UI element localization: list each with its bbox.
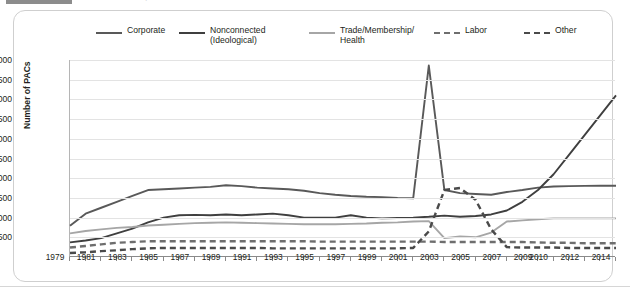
- series-line-labor: [70, 241, 616, 247]
- y-axis-tick-label: 3,500: [0, 114, 12, 124]
- gridline: [70, 218, 615, 219]
- legend-swatch-icon: [179, 32, 205, 34]
- legend-item-nonconnected[interactable]: Nonconnected (Ideological): [179, 25, 265, 45]
- legend-swatch-icon: [524, 32, 550, 34]
- legend-swatch-icon: [96, 32, 122, 34]
- title-strip: Growth in PACs, 1979-2014: [0, 0, 630, 8]
- x-axis-tick-label: 2007: [482, 252, 501, 262]
- gridline: [70, 80, 615, 81]
- plot-area: 5001,0001,5002,0002,5003,0003,5004,0004,…: [69, 60, 615, 257]
- y-axis-tick-label: 3,000: [0, 134, 12, 144]
- page-title: Growth in PACs, 1979-2014: [86, 0, 190, 2]
- gridline: [70, 198, 615, 199]
- x-axis-tick-label: 1991: [233, 252, 252, 262]
- x-axis-tick-label: 1983: [108, 252, 127, 262]
- x-axis-tick-label: 1997: [326, 252, 345, 262]
- chart-legend: CorporateNonconnected (Ideological)Trade…: [74, 25, 630, 55]
- legend-label: Nonconnected (Ideological): [210, 25, 265, 45]
- x-axis-tick-label: 2001: [389, 252, 408, 262]
- x-axis-tick-label: 1995: [295, 252, 314, 262]
- x-axis-tick-label: 1989: [202, 252, 221, 262]
- gridline: [70, 60, 615, 61]
- x-axis-tick-label: 1993: [264, 252, 283, 262]
- gridline: [70, 119, 615, 120]
- y-axis-title: Number of PACs: [22, 61, 32, 129]
- y-axis-tick-label: 4,500: [0, 75, 12, 85]
- series-line-corporate: [70, 66, 616, 226]
- x-axis-tick-label: 1985: [139, 252, 158, 262]
- chart-card: CorporateNonconnected (Ideological)Trade…: [13, 10, 613, 282]
- legend-label: Trade/Membership/ Health: [340, 25, 414, 45]
- gridline: [70, 237, 615, 238]
- legend-swatch-icon: [309, 32, 335, 34]
- legend-label: Other: [555, 25, 577, 35]
- y-axis-tick-label: 500: [0, 232, 12, 242]
- y-axis-tick-label: 1,000: [0, 213, 12, 223]
- x-axis-tick-label: 2003: [420, 252, 439, 262]
- x-axis-tick-label: 2012: [560, 252, 579, 262]
- y-axis-tick-label: 1,500: [0, 193, 12, 203]
- x-axis-tick-label: 2010: [529, 252, 548, 262]
- gridline: [70, 99, 615, 100]
- title-tab-marker: [6, 0, 72, 4]
- x-axis-tick-label: 2005: [451, 252, 470, 262]
- legend-item-corporate[interactable]: Corporate: [96, 25, 165, 35]
- x-axis-tick-label: 1999: [358, 252, 377, 262]
- gridline: [70, 178, 615, 179]
- legend-item-labor[interactable]: Labor: [434, 25, 487, 35]
- gridline: [70, 139, 615, 140]
- legend-swatch-icon: [434, 32, 460, 34]
- x-axis-tick-label: 1981: [77, 252, 96, 262]
- legend-label: Labor: [465, 25, 487, 35]
- y-axis-tick-label: 5,000: [0, 55, 12, 65]
- x-axis-tick-label: 1979: [46, 252, 65, 262]
- legend-item-other[interactable]: Other: [524, 25, 577, 35]
- y-axis-tick-label: 2,000: [0, 173, 12, 183]
- x-axis-tick-label: 2014: [592, 252, 611, 262]
- x-axis-labels: 1979198119831985198719891991199319951997…: [0, 252, 630, 266]
- legend-item-trade-membership[interactable]: Trade/Membership/ Health: [309, 25, 414, 45]
- legend-label: Corporate: [127, 25, 165, 35]
- y-axis-tick-label: 4,000: [0, 94, 12, 104]
- y-axis-tick-label: 2,500: [0, 154, 12, 164]
- gridline: [70, 159, 615, 160]
- chart-page: Growth in PACs, 1979-2014 CorporateNonco…: [0, 0, 630, 291]
- footer-rule: [0, 286, 630, 287]
- x-axis-tick-label: 1987: [170, 252, 189, 262]
